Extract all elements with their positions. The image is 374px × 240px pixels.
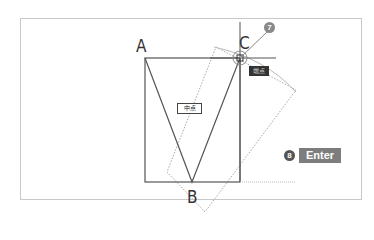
point-a-label: A	[136, 35, 146, 56]
step-7-badge: 7	[264, 22, 275, 33]
point-c-label: C	[239, 32, 250, 53]
point-b-label: B	[187, 186, 198, 207]
step-8-badge: 8	[284, 150, 295, 161]
rectangle-shape	[145, 58, 240, 182]
triangle-shape	[145, 58, 240, 182]
center-tooltip-label: 中点	[177, 103, 202, 114]
snap-tooltip-label: 端点	[249, 66, 269, 76]
enter-key-button: Enter	[299, 148, 341, 163]
